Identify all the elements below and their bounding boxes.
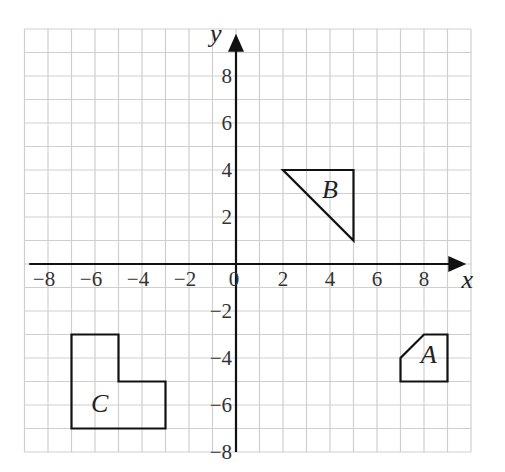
x-axis-label: x <box>461 265 474 294</box>
y-tick-label: −6 <box>210 393 232 417</box>
y-tick-label: −2 <box>210 299 232 323</box>
shape-b <box>283 170 354 241</box>
y-tick-label: 8 <box>222 64 233 88</box>
axes: x y <box>29 19 473 452</box>
x-tick-label: −2 <box>174 267 196 291</box>
x-tick-label: 8 <box>419 267 430 291</box>
y-tick-label: 6 <box>222 111 233 135</box>
y-tick-label: 4 <box>222 158 233 182</box>
y-tick-label: 2 <box>222 205 233 229</box>
y-tick-label: −8 <box>210 440 232 464</box>
y-axis-arrowhead-icon <box>228 34 244 52</box>
shape-c-label: C <box>91 389 109 418</box>
x-tick-label: −8 <box>33 267 55 291</box>
x-tick-label: 6 <box>372 267 383 291</box>
x-tick-label: 4 <box>325 267 336 291</box>
shape-a-label: A <box>419 340 437 369</box>
x-tick-label: −6 <box>80 267 102 291</box>
y-axis-label: y <box>207 19 222 48</box>
x-tick-label: 0 <box>229 267 240 291</box>
shape-b-label: B <box>322 175 338 204</box>
y-tick-label: −4 <box>210 346 233 370</box>
x-tick-label: −4 <box>127 267 150 291</box>
x-tick-label: 2 <box>278 267 289 291</box>
coordinate-grid-figure: x y −8−6−4−2024688642−2−4−6−8 ABC <box>0 0 505 472</box>
